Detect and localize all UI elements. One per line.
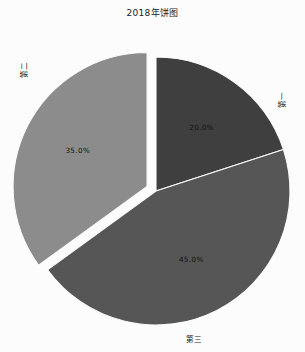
pie-category-label-second: 第二 (19, 62, 29, 79)
pie-category-label-third: 第三 (186, 334, 203, 344)
pie-chart-canvas: 20.0% 45.0% 35.0% 第一 第二 第三 (0, 0, 305, 352)
pie-category-label-first: 第一 (277, 92, 287, 109)
pie-slice-third-percent: 45.0% (179, 255, 204, 264)
pie-slice-first-percent: 20.0% (189, 123, 214, 132)
pie-chart-figure: 2018年饼图 20.0% 45.0% 35.0% 第一 第二 第三 (0, 0, 305, 352)
pie-slice-second-percent: 35.0% (65, 146, 90, 155)
